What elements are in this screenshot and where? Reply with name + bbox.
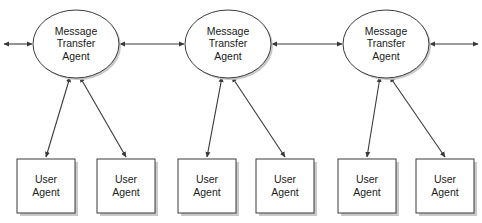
connector-link-mta1-ua1 xyxy=(46,77,70,157)
user-agent-node-6[interactable]: UserAgent xyxy=(416,159,474,213)
user-agent-node-4[interactable]: UserAgent xyxy=(256,159,314,213)
user-agent-node-3[interactable]: UserAgent xyxy=(178,159,236,213)
diagram-svg: MessageTransferAgentMessageTransferAgent… xyxy=(0,0,482,223)
user-agent-label: UserAgent xyxy=(112,172,140,197)
user-agent-label: UserAgent xyxy=(271,172,299,197)
user-agent-node-5[interactable]: UserAgent xyxy=(338,159,396,213)
mta-node-1[interactable]: MessageTransferAgent xyxy=(33,10,119,78)
user-agent-label: UserAgent xyxy=(32,172,60,197)
mta-node-2[interactable]: MessageTransferAgent xyxy=(185,10,271,78)
user-agent-label: UserAgent xyxy=(193,172,221,197)
connector-link-mta1-ua2 xyxy=(80,77,126,157)
connector-link-mta2-ua4 xyxy=(232,77,285,157)
nodes-layer: MessageTransferAgentMessageTransferAgent… xyxy=(17,10,474,213)
connector-link-mta2-ua3 xyxy=(207,77,222,157)
user-agent-label: UserAgent xyxy=(353,172,381,197)
mta-node-3[interactable]: MessageTransferAgent xyxy=(343,10,429,78)
user-agent-node-1[interactable]: UserAgent xyxy=(17,159,75,213)
connector-link-mta3-ua6 xyxy=(390,77,445,157)
user-agent-label: UserAgent xyxy=(431,172,459,197)
connector-link-mta3-ua5 xyxy=(367,77,380,157)
user-agent-node-2[interactable]: UserAgent xyxy=(97,159,155,213)
diagram-canvas: MessageTransferAgentMessageTransferAgent… xyxy=(0,0,482,223)
